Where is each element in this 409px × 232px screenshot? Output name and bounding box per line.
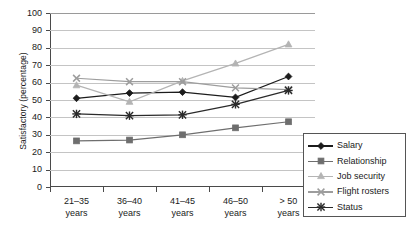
legend-marker-diamond-icon: [314, 139, 328, 153]
y-tick-label-70: 70: [8, 61, 42, 70]
x-tick-4: [262, 187, 263, 192]
y-tick-label-30: 30: [8, 130, 42, 139]
marker-square: [233, 125, 239, 131]
marker-x: [317, 188, 324, 195]
y-tick-label-20: 20: [8, 148, 42, 157]
marker-diamond: [232, 94, 239, 101]
marker-star: [178, 111, 186, 119]
legend-item-flight-rosters[interactable]: Flight rosters: [307, 184, 402, 199]
legend-label: Relationship: [334, 157, 387, 166]
x-tick-0: [50, 187, 51, 192]
y-tick-label-80: 80: [8, 43, 42, 52]
legend-item-job-security[interactable]: Job security: [307, 169, 402, 184]
marker-diamond: [285, 73, 292, 80]
chart-legend: SalaryRelationshipJob securityFlight ros…: [303, 133, 406, 217]
marker-star: [284, 86, 292, 94]
line-chart: Satisfactory (percentage) 10090807060504…: [0, 0, 409, 232]
y-tick-label-60: 60: [8, 78, 42, 87]
legend-swatch: [307, 154, 334, 168]
series-relationship: [74, 119, 292, 144]
legend-item-salary[interactable]: Salary: [307, 138, 402, 153]
x-tick-1: [103, 187, 104, 192]
y-tick-label-90: 90: [8, 26, 42, 35]
legend-label: Flight rosters: [334, 187, 389, 196]
legend-swatch: [307, 169, 334, 183]
legend-label: Status: [334, 203, 363, 212]
y-tick-label-10: 10: [8, 165, 42, 174]
legend-swatch: [307, 185, 334, 199]
marker-triangle: [285, 41, 292, 47]
legend-swatch: [307, 139, 334, 153]
y-tick-label-100: 100: [8, 9, 42, 18]
legend-marker-triangle-icon: [314, 169, 328, 183]
legend-item-relationship[interactable]: Relationship: [307, 153, 402, 168]
y-tick-label-40: 40: [8, 113, 42, 122]
legend-marker-star-icon: [314, 200, 328, 214]
marker-square: [127, 137, 133, 143]
legend-marker-square-icon: [314, 154, 328, 168]
x-tick-2: [156, 187, 157, 192]
legend-label: Salary: [334, 141, 363, 150]
legend-item-status[interactable]: Status: [307, 200, 402, 215]
marker-triangle: [317, 173, 324, 179]
marker-diamond: [179, 89, 186, 96]
marker-star: [316, 203, 324, 211]
legend-swatch: [307, 200, 334, 214]
marker-square: [286, 119, 292, 125]
marker-diamond: [126, 90, 133, 97]
marker-square: [74, 138, 80, 144]
legend-marker-x-icon: [314, 185, 328, 199]
marker-star: [125, 111, 133, 119]
y-tick-label-50: 50: [8, 96, 42, 105]
marker-square: [180, 132, 186, 138]
marker-diamond: [73, 95, 80, 102]
marker-star: [231, 100, 239, 108]
marker-square: [318, 158, 324, 164]
series-layer: [50, 13, 315, 187]
marker-star: [72, 110, 80, 118]
x-tick-3: [209, 187, 210, 192]
marker-triangle: [73, 82, 80, 88]
legend-label: Job security: [334, 172, 385, 181]
y-tick-label-0: 0: [8, 183, 42, 192]
marker-diamond: [317, 142, 324, 149]
